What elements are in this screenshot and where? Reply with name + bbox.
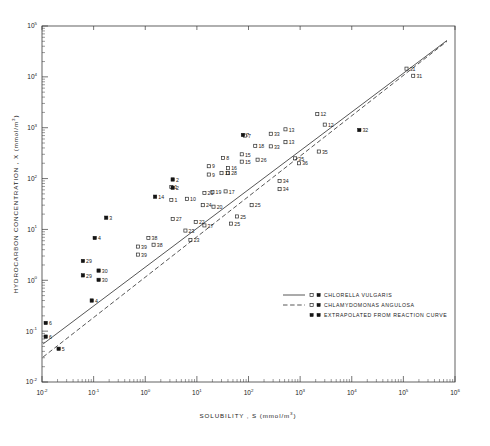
svg-text:22: 22 xyxy=(199,219,205,225)
svg-text:8: 8 xyxy=(226,155,229,161)
svg-text:19: 19 xyxy=(216,189,222,195)
svg-text:5: 5 xyxy=(62,346,65,352)
svg-text:26: 26 xyxy=(261,157,267,163)
svg-text:38: 38 xyxy=(157,242,163,248)
x-axis-tick-labels: 10-210-1100101102103104105106 xyxy=(36,388,460,396)
svg-text:25: 25 xyxy=(240,214,246,220)
svg-text:38: 38 xyxy=(152,235,158,241)
svg-text:30: 30 xyxy=(102,277,108,283)
x-axis-title: SOLUBILITY , S (mmol/m3) xyxy=(200,411,297,419)
svg-text:9: 9 xyxy=(212,163,215,169)
x-axis-ticks xyxy=(42,26,455,382)
svg-text:10-1: 10-1 xyxy=(26,326,38,334)
svg-text:EXTRAPOLATED FROM REACTION CUR: EXTRAPOLATED FROM REACTION CURVE xyxy=(324,312,447,318)
svg-text:14: 14 xyxy=(158,194,164,200)
svg-text:101: 101 xyxy=(27,224,37,232)
svg-text:100: 100 xyxy=(140,388,150,396)
svg-text:13: 13 xyxy=(289,139,295,145)
svg-text:31: 31 xyxy=(410,66,416,72)
svg-text:31: 31 xyxy=(416,73,422,79)
chart-legend: CHLORELLA VULGARISCHLAMYDOMONAS ANGULOSA… xyxy=(283,292,447,318)
svg-text:105: 105 xyxy=(27,21,37,29)
svg-text:100: 100 xyxy=(27,275,37,283)
svg-text:27: 27 xyxy=(176,216,182,222)
svg-text:9: 9 xyxy=(212,172,215,178)
svg-text:29: 29 xyxy=(86,258,92,264)
svg-text:2: 2 xyxy=(176,177,179,183)
plot-frame xyxy=(42,26,455,382)
svg-text:4: 4 xyxy=(98,235,101,241)
y-axis-tick-labels: 10-210-1100101102103104105 xyxy=(26,21,38,385)
svg-text:103: 103 xyxy=(27,123,37,131)
svg-text:15: 15 xyxy=(245,159,251,165)
svg-text:12: 12 xyxy=(320,111,326,117)
svg-text:23: 23 xyxy=(189,228,195,234)
svg-text:103: 103 xyxy=(295,388,305,396)
svg-text:104: 104 xyxy=(27,72,37,80)
svg-text:25: 25 xyxy=(234,221,240,227)
svg-text:10: 10 xyxy=(190,196,196,202)
svg-text:33: 33 xyxy=(274,144,280,150)
y-axis-title: HYDROCARBON CONCENTRATION , X (mmol/m3) xyxy=(11,115,19,294)
svg-text:36: 36 xyxy=(302,160,308,166)
svg-text:105: 105 xyxy=(399,388,409,396)
svg-text:7: 7 xyxy=(246,132,249,138)
svg-text:101: 101 xyxy=(192,388,202,396)
svg-text:21: 21 xyxy=(208,190,214,196)
figure-container: 10-210-1100101102103104105106 10-210-110… xyxy=(0,0,490,446)
svg-text:11: 11 xyxy=(225,170,230,176)
svg-text:6: 6 xyxy=(49,320,52,326)
svg-text:2: 2 xyxy=(176,185,179,191)
svg-text:CHLORELLA VULGARIS: CHLORELLA VULGARIS xyxy=(324,292,392,298)
svg-text:17: 17 xyxy=(229,189,235,195)
svg-text:6: 6 xyxy=(49,334,52,340)
scatter-plot: 10-210-1100101102103104105106 10-210-110… xyxy=(0,0,490,446)
svg-text:3: 3 xyxy=(109,215,112,221)
svg-text:24: 24 xyxy=(206,202,212,208)
svg-text:106: 106 xyxy=(450,388,460,396)
svg-text:4: 4 xyxy=(95,298,98,304)
regression-lines xyxy=(43,40,447,357)
svg-text:33: 33 xyxy=(274,131,280,137)
svg-text:102: 102 xyxy=(244,388,254,396)
svg-text:23: 23 xyxy=(194,237,200,243)
svg-text:10-2: 10-2 xyxy=(26,377,38,385)
svg-text:29: 29 xyxy=(86,273,92,279)
svg-text:15: 15 xyxy=(245,152,251,158)
svg-text:104: 104 xyxy=(347,388,357,396)
svg-text:CHLAMYDOMONAS ANGULOSA: CHLAMYDOMONAS ANGULOSA xyxy=(324,302,415,308)
svg-text:20: 20 xyxy=(217,204,223,210)
svg-text:34: 34 xyxy=(283,178,289,184)
svg-text:25: 25 xyxy=(255,202,261,208)
svg-text:32: 32 xyxy=(362,127,368,133)
svg-text:37: 37 xyxy=(208,223,214,229)
svg-text:1: 1 xyxy=(175,197,178,203)
svg-text:30: 30 xyxy=(102,268,108,274)
svg-text:18: 18 xyxy=(258,143,264,149)
svg-text:10-1: 10-1 xyxy=(88,388,100,396)
svg-text:102: 102 xyxy=(27,174,37,182)
svg-text:35: 35 xyxy=(322,149,328,155)
svg-text:39: 39 xyxy=(141,244,147,250)
svg-text:12: 12 xyxy=(328,122,334,128)
svg-text:34: 34 xyxy=(283,186,289,192)
svg-text:28: 28 xyxy=(231,170,237,176)
svg-text:13: 13 xyxy=(289,127,295,133)
y-axis-ticks xyxy=(42,26,48,382)
svg-text:10-2: 10-2 xyxy=(36,388,48,396)
svg-text:39: 39 xyxy=(141,252,147,258)
